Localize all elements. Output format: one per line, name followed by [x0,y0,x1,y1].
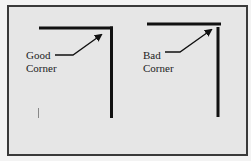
good-corner-arrow [55,35,101,55]
good-corner-label: Good Corner [26,49,57,75]
corner-diagram [0,0,251,161]
bad-label-line1: Bad [143,49,174,62]
bad-corner-label: Bad Corner [143,49,174,75]
bad-label-line2: Corner [143,62,174,75]
good-label-line1: Good [26,49,57,62]
good-label-line2: Corner [26,62,57,75]
